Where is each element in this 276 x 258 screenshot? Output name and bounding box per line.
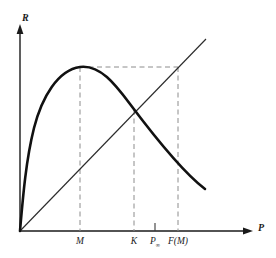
x-axis-label: P	[258, 222, 264, 233]
tick-label-p-infinity: P∞	[150, 236, 160, 248]
x-axis-arrowhead	[243, 228, 253, 235]
dashed-guides	[80, 67, 178, 231]
y-axis-label: R	[22, 12, 29, 23]
recruitment-curve	[20, 67, 205, 231]
tick-label-f-of-m: F(M)	[168, 236, 188, 246]
x-axis	[20, 228, 253, 235]
y-axis-arrowhead	[17, 24, 24, 34]
figure-container: R P M K P∞ F(M)	[0, 0, 276, 258]
tick-label-p-infinity-subscript: ∞	[156, 242, 160, 248]
tick-label-k: K	[131, 236, 137, 246]
chart-canvas	[0, 0, 276, 258]
tick-label-m: M	[76, 236, 84, 246]
